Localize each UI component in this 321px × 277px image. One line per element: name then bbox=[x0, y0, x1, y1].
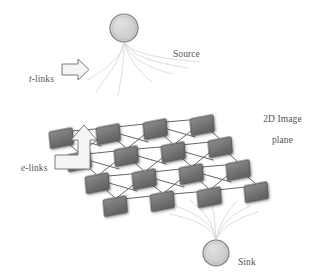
grid-node bbox=[114, 146, 138, 167]
grid-node bbox=[208, 137, 232, 158]
grid-node bbox=[161, 142, 185, 163]
sink-label: Sink bbox=[233, 246, 256, 267]
source-label: Source bbox=[168, 38, 200, 59]
grid-node bbox=[143, 119, 167, 140]
grid-node bbox=[85, 173, 109, 194]
e-links-label-rest: -links bbox=[25, 163, 47, 173]
t-links-label-rest: -links bbox=[32, 74, 54, 84]
grid-node bbox=[103, 196, 127, 217]
t-links-label: t-links bbox=[24, 63, 54, 84]
grid-node bbox=[49, 128, 73, 149]
sink-node bbox=[203, 240, 229, 266]
source-node bbox=[110, 14, 138, 42]
e-links-label: e-links bbox=[16, 152, 48, 173]
grid-node bbox=[197, 187, 221, 208]
grid-node bbox=[150, 191, 174, 212]
t-links-arrow bbox=[62, 59, 89, 80]
image-plane-label: 2D Image plane bbox=[249, 103, 311, 146]
grid-node bbox=[179, 164, 203, 185]
grid-node bbox=[132, 169, 156, 190]
grid-node bbox=[226, 160, 250, 181]
grid-node bbox=[244, 182, 268, 203]
grid-node bbox=[96, 124, 120, 145]
grid-node bbox=[190, 115, 214, 136]
